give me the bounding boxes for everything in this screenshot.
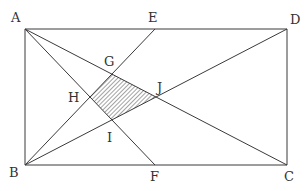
label-d: D	[290, 12, 300, 27]
shaded-quadrilateral-ghij	[90, 74, 156, 120]
label-h: H	[68, 90, 79, 105]
label-e: E	[148, 10, 158, 25]
label-j: J	[155, 80, 162, 95]
label-c: C	[284, 169, 294, 184]
label-i: I	[107, 130, 112, 145]
label-a: A	[10, 10, 21, 25]
label-g: G	[104, 54, 114, 69]
label-b: B	[9, 165, 19, 180]
geometry-figure: A E D G H J I B F C	[0, 0, 307, 191]
segments	[25, 29, 287, 165]
label-f: F	[150, 169, 159, 184]
